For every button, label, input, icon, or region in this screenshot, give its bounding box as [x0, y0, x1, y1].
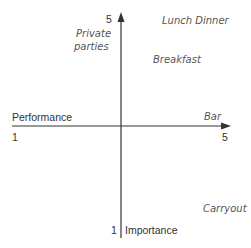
- label-private-line2: parties: [74, 42, 109, 52]
- label-lunch-dinner: Lunch Dinner: [162, 16, 229, 26]
- x-axis-max-tick: 5: [222, 132, 228, 143]
- x-axis-label: Performance: [12, 112, 72, 123]
- label-breakfast: Breakfast: [153, 55, 201, 65]
- y-axis-label: Importance: [125, 225, 178, 236]
- label-private-line1: Private: [76, 29, 111, 39]
- y-axis-arrow-icon: [118, 12, 125, 22]
- label-bar: Bar: [204, 112, 221, 122]
- x-axis-arrow-icon: [221, 123, 231, 130]
- y-axis-min-tick: 1: [111, 225, 117, 236]
- label-carryout: Carryout: [203, 204, 247, 214]
- y-axis-max-tick: 5: [106, 14, 112, 25]
- x-axis-min-tick: 1: [12, 132, 18, 143]
